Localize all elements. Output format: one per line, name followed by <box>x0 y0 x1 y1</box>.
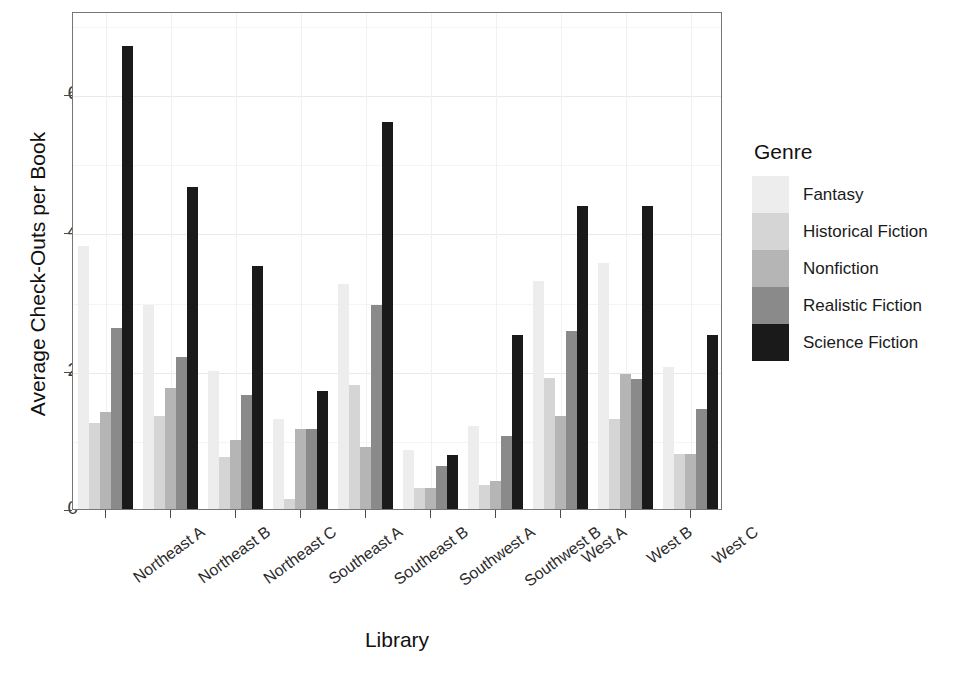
bar <box>111 328 122 509</box>
bar <box>317 391 328 509</box>
bar-group <box>398 13 463 509</box>
x-axis-tick-label: Northeast B <box>195 523 274 587</box>
bar <box>241 395 252 509</box>
bar <box>165 388 176 509</box>
legend-title: Genre <box>752 140 952 164</box>
bar <box>382 122 393 509</box>
legend-item: Nonfiction <box>752 250 952 287</box>
bar <box>436 466 447 509</box>
bar <box>349 385 360 510</box>
legend-swatch <box>752 213 789 250</box>
bar <box>447 455 458 509</box>
x-axis-tick-mark <box>300 510 301 518</box>
bar <box>533 281 544 509</box>
legend-item: Fantasy <box>752 176 952 213</box>
x-axis-tick-mark <box>560 510 561 518</box>
bar <box>707 335 718 509</box>
y-axis-tick-mark <box>64 233 72 234</box>
x-axis-tick-mark <box>365 510 366 518</box>
bar-group <box>203 13 268 509</box>
x-axis-tick-mark <box>690 510 691 518</box>
x-axis-title: Library <box>72 628 722 652</box>
legend-item: Realistic Fiction <box>752 287 952 324</box>
bar <box>663 367 674 509</box>
bar <box>620 374 631 509</box>
bar <box>219 457 230 509</box>
bar <box>100 412 111 509</box>
y-axis-tick-mark <box>64 372 72 373</box>
bar <box>598 263 609 509</box>
y-axis-tick-mark <box>64 95 72 96</box>
bar <box>371 305 382 509</box>
bar-group <box>658 13 722 509</box>
bar <box>403 450 414 509</box>
bar <box>230 440 241 509</box>
bar <box>490 481 501 509</box>
bar <box>609 419 620 509</box>
bar <box>295 429 306 509</box>
x-axis-tick-mark <box>625 510 626 518</box>
x-axis-tick-label: West B <box>643 523 695 568</box>
bar-group <box>138 13 203 509</box>
x-axis-tick-label: Northeast C <box>260 523 340 588</box>
bar <box>284 499 295 509</box>
x-axis-tick-label: Northeast A <box>129 523 207 587</box>
bar <box>78 246 89 509</box>
bar-group <box>528 13 593 509</box>
x-axis-tick-mark <box>235 510 236 518</box>
y-axis-title: Average Check-Outs per Book <box>26 64 50 484</box>
bar <box>187 187 198 509</box>
legend-item: Historical Fiction <box>752 213 952 250</box>
legend-label: Fantasy <box>803 185 863 205</box>
legend-swatch <box>752 176 789 213</box>
bar-chart: Average Check-Outs per Book 0246 Northea… <box>0 0 962 680</box>
bar-group <box>268 13 333 509</box>
bar <box>176 357 187 509</box>
bar-group <box>73 13 138 509</box>
legend-swatch <box>752 324 789 361</box>
y-axis-tick-mark <box>64 510 72 511</box>
legend-swatch <box>752 287 789 324</box>
bar <box>468 426 479 509</box>
x-axis-tick-mark <box>170 510 171 518</box>
legend-item: Science Fiction <box>752 324 952 361</box>
legend-items: FantasyHistorical FictionNonfictionReali… <box>752 176 952 361</box>
bar <box>154 416 165 509</box>
bar <box>208 371 219 509</box>
x-axis-tick-label: West C <box>708 523 761 568</box>
legend: Genre FantasyHistorical FictionNonfictio… <box>752 140 952 361</box>
legend-label: Science Fiction <box>803 333 918 353</box>
bar <box>642 206 653 509</box>
bar-group <box>333 13 398 509</box>
bar <box>273 419 284 509</box>
bar <box>425 488 436 509</box>
bar <box>360 447 371 509</box>
bar <box>414 488 425 509</box>
bar <box>306 429 317 509</box>
bar <box>252 266 263 509</box>
bar <box>122 46 133 509</box>
bar <box>685 454 696 509</box>
bar <box>696 409 707 509</box>
x-axis-tick-mark <box>495 510 496 518</box>
plot-panel <box>72 12 722 510</box>
bar <box>512 335 523 509</box>
bar <box>631 379 642 509</box>
bar <box>89 423 100 509</box>
bar <box>555 416 566 509</box>
bar <box>479 485 490 509</box>
bar <box>674 454 685 509</box>
bar-group <box>593 13 658 509</box>
x-axis-tick-mark <box>105 510 106 518</box>
bar <box>143 305 154 509</box>
bar-group <box>463 13 528 509</box>
bar <box>338 284 349 509</box>
bar <box>544 378 555 509</box>
bar <box>577 206 588 509</box>
legend-label: Historical Fiction <box>803 222 928 242</box>
x-axis-tick-mark <box>430 510 431 518</box>
legend-label: Realistic Fiction <box>803 296 922 316</box>
legend-swatch <box>752 250 789 287</box>
bar <box>501 436 512 509</box>
bar <box>566 331 577 509</box>
